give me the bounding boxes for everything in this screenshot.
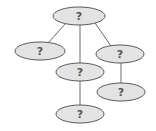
node-root: ?	[53, 7, 105, 25]
node-right: ?	[96, 45, 144, 63]
node-right-label: ?	[117, 48, 123, 61]
node-right-child-label: ?	[118, 86, 124, 99]
edge-root-left	[48, 23, 66, 43]
node-middle-label: ?	[77, 66, 83, 79]
tree-diagram: ? ? ? ? ? ?	[0, 0, 156, 131]
node-left: ?	[15, 42, 65, 60]
edge-root-right	[95, 23, 111, 46]
node-right-child: ?	[97, 83, 145, 101]
node-left-label: ?	[37, 45, 43, 58]
node-root-label: ?	[76, 10, 82, 23]
node-middle: ?	[56, 63, 104, 81]
node-middle-child-label: ?	[77, 108, 83, 121]
node-middle-child: ?	[56, 105, 104, 123]
